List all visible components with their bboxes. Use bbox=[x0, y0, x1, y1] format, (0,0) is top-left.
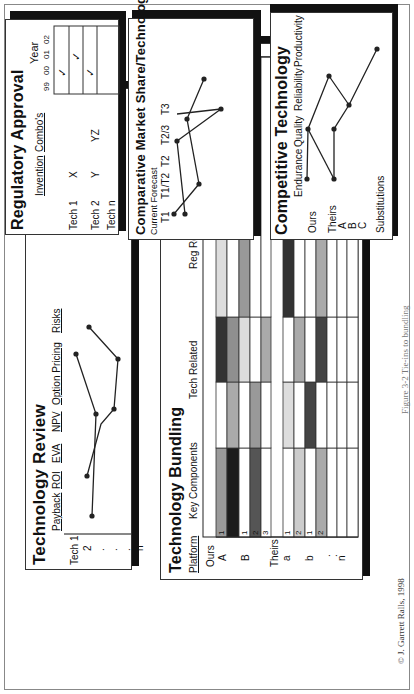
check-icon: ✓ bbox=[84, 68, 97, 77]
row-number: 1 bbox=[283, 531, 292, 535]
competitive-technology-panel: Competitive Technology Endurance Quality… bbox=[270, 12, 393, 240]
market-share-chart bbox=[129, 17, 255, 239]
row-number: 1 bbox=[305, 531, 314, 535]
market-share-panel: Comparative Market Share/Technologies Cu… bbox=[128, 18, 254, 240]
check-icon: ✓ bbox=[70, 52, 83, 61]
row-number: 2 bbox=[294, 531, 303, 535]
rotated-document-page: Technology Review Payback ROI EVA NPV Op… bbox=[0, 0, 414, 694]
check-icon: ✓ bbox=[56, 68, 69, 77]
copyright-text: © J. Garrett Ralls, 1998 bbox=[396, 578, 406, 664]
regulatory-approval-panel: Regulatory Approval Invention Combo's Ye… bbox=[5, 19, 119, 235]
row-number: 2 bbox=[316, 531, 325, 535]
competitive-chart bbox=[271, 11, 394, 239]
row-number: 1 bbox=[240, 531, 249, 535]
figure-caption: Figure 3-2 Tie-ins to bundling bbox=[400, 305, 410, 414]
row-number: 2 bbox=[251, 531, 260, 535]
row-number: 3 bbox=[261, 531, 270, 535]
year-grid bbox=[6, 18, 120, 234]
row-number: 1 bbox=[217, 531, 226, 535]
